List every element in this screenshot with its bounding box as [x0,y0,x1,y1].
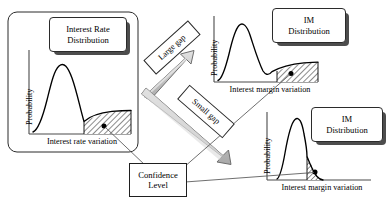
im-large-callout[interactable]: IM Distribution [272,8,346,43]
interest-rate-y-axis-label: Probability [25,89,34,125]
im-small-confidence-dot [313,170,318,175]
leader-to-im-small [185,173,314,183]
im-small-tail-shade [307,157,323,181]
confidence-level-line2: Level [148,180,168,190]
im-small-y-axis-label: Probability [263,138,272,174]
interest-rate-callout[interactable]: Interest Rate Distribution [49,17,127,52]
im-large-callout-line1: IM [304,15,315,25]
im-large-y-axis-label: Probability [210,40,219,76]
im-small-callout-line1: IM [342,114,353,124]
interest-rate-callout-line1: Interest Rate [66,24,110,34]
im-small-x-axis-label: Interest margin variation [264,183,380,192]
confidence-level-line1: Confidence [138,170,178,180]
im-small-callout[interactable]: IM Distribution [311,107,383,142]
im-large-tail-shade [277,62,318,82]
im-large-x-axis-label: Interest margin variation [212,85,328,94]
confidence-level-box[interactable]: Confidence Level [129,163,187,197]
im-large-callout-line2: Distribution [288,26,330,36]
interest-rate-x-axis-label: Interest rate variation [30,137,134,146]
interest-rate-callout-line2: Distribution [67,35,109,45]
im-small-callout-line2: Distribution [326,125,368,135]
figure-canvas: Interest Rate Distribution Probability I… [0,0,388,208]
